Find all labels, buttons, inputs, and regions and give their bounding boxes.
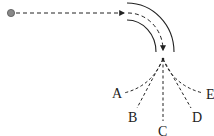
outer-channel-wall	[127, 3, 174, 52]
outlet-label-b: B	[128, 110, 137, 125]
branch-a	[124, 59, 163, 93]
curved-flow-path	[128, 13, 163, 50]
outlet-label-c: C	[158, 124, 167, 136]
branch-e	[163, 59, 203, 93]
inner-channel-wall	[127, 20, 156, 52]
source-point	[7, 9, 14, 16]
outlet-label-d: D	[192, 110, 202, 125]
diagram-canvas: A B C D E	[0, 0, 214, 136]
outlet-label-a: A	[112, 86, 123, 101]
outlet-label-e: E	[206, 87, 214, 102]
branch-b	[137, 59, 163, 108]
branch-d	[163, 59, 191, 108]
